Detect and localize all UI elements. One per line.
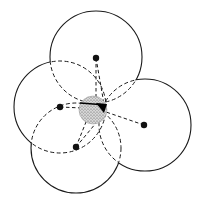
center-dot-right <box>141 122 147 128</box>
spoke-bottom <box>76 123 96 147</box>
center-dot-top <box>93 55 99 61</box>
center-dot-left <box>57 104 63 110</box>
spoke-bottom <box>76 122 86 147</box>
spoke-right <box>106 112 144 125</box>
overlapping-circles-diagram <box>0 0 203 209</box>
center-dot-bottom <box>73 144 79 150</box>
center-region <box>79 96 107 124</box>
spoke-left <box>60 107 82 108</box>
